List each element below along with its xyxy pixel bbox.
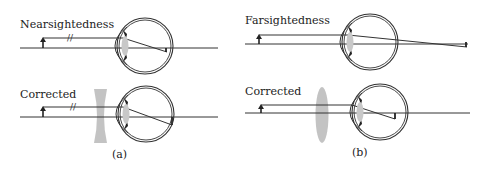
label-corrected-a: Corrected xyxy=(20,88,76,101)
convex-lens xyxy=(316,87,329,143)
vision-correction-diagram: // // Nearsightedness Corrected (a) Fars… xyxy=(0,0,490,171)
concave-lens xyxy=(94,89,107,143)
break-mark-bottom: // xyxy=(70,102,77,112)
label-nearsightedness: Nearsightedness xyxy=(20,18,114,31)
refracted-ray xyxy=(123,107,172,125)
caption-b: (b) xyxy=(352,146,368,159)
refracted-ray xyxy=(123,38,167,52)
label-farsightedness: Farsightedness xyxy=(245,14,330,27)
caption-a: (a) xyxy=(112,148,127,161)
refracted-ray xyxy=(348,35,467,47)
label-corrected-b: Corrected xyxy=(245,85,301,98)
break-mark-top: // xyxy=(67,33,74,43)
